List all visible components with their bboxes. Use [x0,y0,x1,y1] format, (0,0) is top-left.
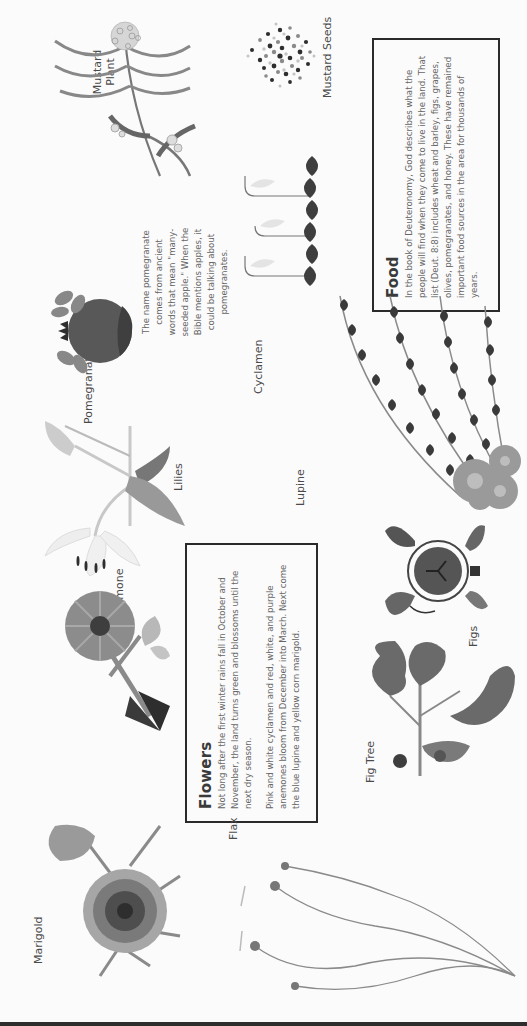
flax-illustration [235,826,525,1006]
lilies-illustration [30,416,200,586]
food-info-box: Food In the book of Deuteronomy, God des… [372,38,500,312]
pomegranate-note: The name pomegranate comes from ancient … [140,226,231,338]
flowers-title: Flowers [197,557,215,809]
mustard-seeds-illustration [240,16,320,96]
pomegranate-illustration [40,276,150,386]
label-mustard-seeds: Mustard Seeds [322,17,335,98]
label-cyclamen: Cyclamen [253,340,266,395]
fig-tree-illustration [360,636,520,786]
bottom-edge-bar [0,1022,527,1026]
flowers-paragraph-1: Not long after the first winter rains fa… [216,557,255,809]
rotated-spread: Food In the book of Deuteronomy, God des… [0,0,527,1026]
food-paragraph: In the book of Deuteronomy, God describe… [403,52,481,298]
flowers-paragraph-2: Pink and white cyclamen and red, white, … [264,557,303,809]
food-title: Food [384,52,402,298]
cyclamen-illustration [230,136,320,296]
page-frame: Food In the book of Deuteronomy, God des… [0,0,527,1026]
flowers-info-box: Flowers Not long after the first winter … [185,543,318,823]
anemone-illustration [30,596,170,736]
figs-illustration [380,516,490,626]
marigold-illustration [40,816,190,986]
mustard-plant-illustration [30,26,200,196]
lupine-illustration [300,276,520,506]
